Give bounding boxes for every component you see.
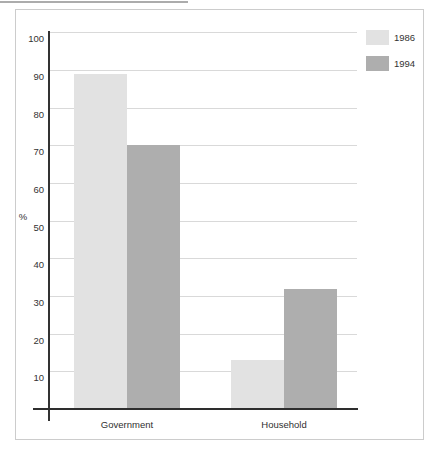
y-axis-line — [48, 31, 50, 421]
x-category-label-household: Household — [229, 418, 339, 431]
y-tick-label-20: 20 — [14, 335, 44, 347]
y-tick-label-10: 10 — [14, 372, 44, 384]
x-axis-line — [33, 408, 358, 410]
bar-government-1994 — [127, 145, 180, 409]
legend-swatch-1994 — [366, 56, 389, 71]
y-tick-label-50: 50 — [14, 222, 44, 234]
bar-government-1986 — [74, 74, 127, 409]
legend-label-1986: 1986 — [394, 31, 415, 44]
x-category-label-government: Government — [72, 418, 182, 431]
bar-household-1994 — [284, 289, 337, 410]
y-tick-label-40: 40 — [14, 259, 44, 271]
legend-label-1994: 1994 — [394, 57, 415, 70]
bar-household-1986 — [231, 360, 284, 409]
y-tick-label-100: 100 — [14, 33, 44, 45]
y-tick-label-70: 70 — [14, 146, 44, 158]
y-tick-label-90: 90 — [14, 71, 44, 83]
top-edge-artifact-line — [0, 1, 188, 3]
y-tick-label-80: 80 — [14, 109, 44, 121]
legend-swatch-1986 — [366, 30, 389, 45]
gridline-100 — [49, 32, 357, 33]
y-tick-label-30: 30 — [14, 297, 44, 309]
y-tick-label-60: 60 — [14, 184, 44, 196]
gridline-90 — [49, 70, 357, 71]
chart-canvas: % 100908070605040302010GovernmentHouseho… — [0, 0, 436, 453]
